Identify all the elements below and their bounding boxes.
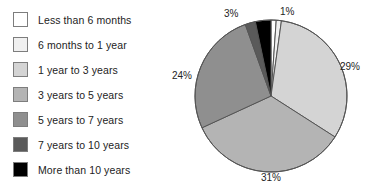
legend-swatch-1-year-to-3-years bbox=[13, 62, 28, 77]
legend-swatch-7-years-to-10-years bbox=[13, 137, 28, 152]
legend-swatch-3-years-to-5-years bbox=[13, 87, 28, 102]
legend-swatch-6-months-to-1-year bbox=[13, 37, 28, 52]
chart-legend: Less than 6 months 6 months to 1 year 1 … bbox=[0, 0, 172, 191]
legend-item-more-than-10-years[interactable]: More than 10 years bbox=[0, 157, 172, 182]
legend-item-6-months-to-1-year[interactable]: 6 months to 1 year bbox=[0, 32, 172, 57]
pie-slice-percent-label: 1% bbox=[280, 6, 294, 17]
pie-slice-percent-label: 31% bbox=[261, 172, 281, 183]
legend-item-3-years-to-5-years[interactable]: 3 years to 5 years bbox=[0, 82, 172, 107]
pie-slice-percent-label: 3% bbox=[224, 8, 238, 19]
legend-swatch-5-years-to-7-years bbox=[13, 112, 28, 127]
legend-label-7-years-to-10-years: 7 years to 10 years bbox=[38, 139, 129, 151]
legend-swatch-less-than-6-months bbox=[13, 12, 28, 27]
pie-slice-percent-label: 24% bbox=[172, 70, 192, 81]
pie-slice-percent-label: 29% bbox=[340, 61, 360, 72]
pie-slices bbox=[172, 0, 383, 191]
legend-label-3-years-to-5-years: 3 years to 5 years bbox=[38, 89, 123, 101]
legend-swatch-more-than-10-years bbox=[13, 162, 28, 177]
legend-item-1-year-to-3-years[interactable]: 1 year to 3 years bbox=[0, 57, 172, 82]
pie-chart-plot: 1%29%31%24%3% bbox=[172, 0, 383, 191]
legend-item-7-years-to-10-years[interactable]: 7 years to 10 years bbox=[0, 132, 172, 157]
legend-label-less-than-6-months: Less than 6 months bbox=[38, 14, 131, 26]
legend-label-5-years-to-7-years: 5 years to 7 years bbox=[38, 114, 123, 126]
legend-label-more-than-10-years: More than 10 years bbox=[38, 164, 130, 176]
legend-item-less-than-6-months[interactable]: Less than 6 months bbox=[0, 7, 172, 32]
legend-label-6-months-to-1-year: 6 months to 1 year bbox=[38, 39, 127, 51]
legend-item-5-years-to-7-years[interactable]: 5 years to 7 years bbox=[0, 107, 172, 132]
legend-label-1-year-to-3-years: 1 year to 3 years bbox=[38, 64, 118, 76]
pie-chart-figure: Less than 6 months 6 months to 1 year 1 … bbox=[0, 0, 383, 191]
